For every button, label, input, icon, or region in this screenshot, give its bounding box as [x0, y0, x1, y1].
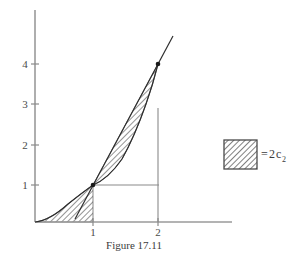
y-tick-label-3: 3	[22, 98, 28, 110]
figure-container: 1 2 3 4 1 2 = 2 c 2 Figure 17.11	[0, 0, 304, 255]
hatched-square-swatch	[224, 140, 257, 169]
y-tick-label-4: 4	[22, 58, 28, 70]
x-tick-label-1: 1	[90, 226, 96, 238]
legend-equals-sign: =	[261, 147, 268, 161]
figure-svg: 1 2 3 4 1 2 = 2 c 2 Figure 17.11	[0, 0, 304, 255]
legend-subscript: 2	[282, 155, 286, 164]
parabola-curve	[35, 64, 158, 222]
point-1-1	[91, 183, 96, 188]
shaded-region-under-curve	[35, 185, 93, 222]
legend-group: = 2 c 2	[224, 140, 286, 169]
y-tick-label-2: 2	[22, 139, 28, 151]
legend-coefficient: 2	[269, 147, 275, 161]
y-tick-label-1: 1	[22, 179, 28, 191]
point-2-4	[156, 62, 161, 67]
x-tick-label-2: 2	[155, 226, 161, 238]
figure-caption: Figure 17.11	[106, 239, 162, 251]
legend-symbol: c	[276, 147, 281, 161]
